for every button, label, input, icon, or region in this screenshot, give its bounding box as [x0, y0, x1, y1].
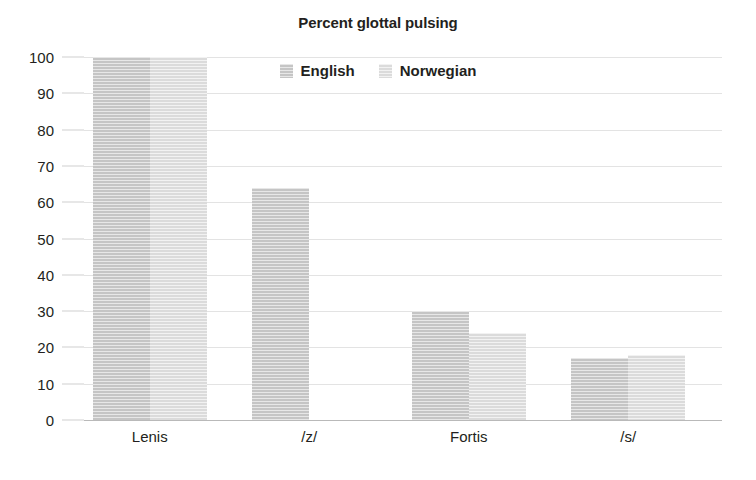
bar-english-3: [571, 358, 628, 420]
x-axis-label: Lenis: [132, 428, 168, 445]
bar-english-1: [252, 188, 309, 420]
y-tick-50: [62, 238, 84, 239]
y-tick-100: [62, 57, 84, 58]
plot-area: [84, 57, 722, 420]
bars-layer: [84, 57, 722, 420]
y-axis-label: 80: [37, 121, 54, 138]
y-axis-label: 90: [37, 85, 54, 102]
y-axis-label: 20: [37, 339, 54, 356]
y-axis-label: 30: [37, 303, 54, 320]
y-tick-30: [62, 311, 84, 312]
y-axis-label: 40: [37, 266, 54, 283]
y-tick-90: [62, 93, 84, 94]
x-axis-label: /z/: [301, 428, 317, 445]
y-axis-label: 0: [46, 412, 54, 429]
y-tick-60: [62, 202, 84, 203]
y-tick-20: [62, 347, 84, 348]
y-axis-label: 100: [29, 49, 54, 66]
bar-norwegian-0: [150, 57, 207, 420]
bar-english-2: [412, 311, 469, 420]
x-axis-label: Fortis: [450, 428, 488, 445]
y-axis-label: 60: [37, 194, 54, 211]
y-tick-70: [62, 165, 84, 166]
bar-english-0: [93, 57, 150, 420]
bar-norwegian-2: [469, 333, 526, 420]
y-tick-0: [62, 420, 84, 421]
y-tick-40: [62, 274, 84, 275]
x-axis-label: /s/: [620, 428, 636, 445]
y-axis-label: 70: [37, 157, 54, 174]
x-axis: Lenis/z/Fortis/s/: [84, 424, 722, 464]
gridline-0: [84, 420, 722, 421]
bar-norwegian-3: [628, 355, 685, 420]
bar-chart: Percent glottal pulsing 0102030405060708…: [0, 0, 756, 480]
y-axis-label: 50: [37, 230, 54, 247]
y-axis: 0102030405060708090100: [0, 0, 84, 363]
chart-title: Percent glottal pulsing: [0, 14, 756, 31]
y-axis-label: 10: [37, 375, 54, 392]
y-tick-10: [62, 383, 84, 384]
y-tick-80: [62, 129, 84, 130]
